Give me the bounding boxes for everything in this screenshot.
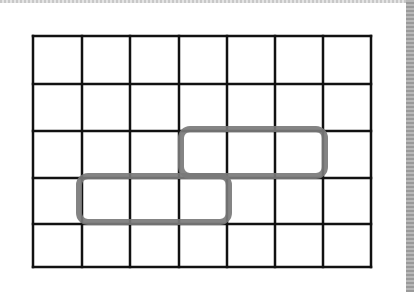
lower-region (79, 176, 229, 222)
grid-lines (33, 36, 371, 267)
grid-diagram (0, 0, 414, 292)
upper-region (181, 129, 325, 176)
highlight-regions (79, 129, 325, 222)
